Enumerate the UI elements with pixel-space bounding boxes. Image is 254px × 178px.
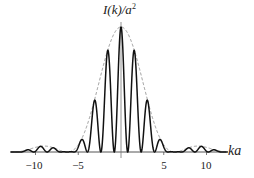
x-tick-label: −10 [25,159,42,171]
chart-plot-area [0,0,254,178]
x-tick-label: −5 [72,159,84,171]
x-axis-label: ka [228,143,241,159]
y-axis-label: I(k)/a2 [103,2,136,18]
x-tick-label: 5 [161,159,167,171]
intensity-curve [11,27,228,152]
y-axis-label-text: I(k)/a [103,2,132,17]
y-axis-label-exponent: 2 [132,2,136,11]
x-tick-label: 10 [201,159,212,171]
